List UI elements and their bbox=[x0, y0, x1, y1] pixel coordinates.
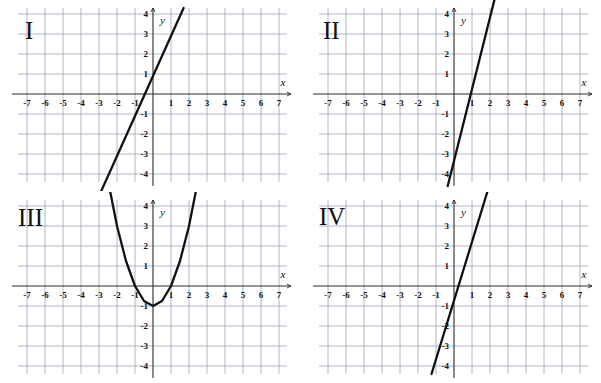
coordinate-plane-II: -7-6-5-4-3-2-112345674321-1-2-3-4 x y bbox=[301, 0, 601, 191]
y-tick-label: 4 bbox=[144, 9, 149, 19]
y-tick-label: -3 bbox=[442, 341, 450, 351]
x-tick-label: 1 bbox=[470, 290, 475, 300]
x-tick-label: -5 bbox=[360, 98, 368, 108]
x-tick-label: 7 bbox=[277, 290, 282, 300]
x-tick-label: -2 bbox=[113, 290, 121, 300]
y-tick-label: 4 bbox=[445, 9, 450, 19]
x-tick-label: 3 bbox=[205, 98, 210, 108]
y-tick-label: -2 bbox=[442, 129, 450, 139]
x-tick-label: -4 bbox=[378, 98, 386, 108]
panel-II: II bbox=[301, 0, 601, 191]
x-tick-label: 3 bbox=[506, 98, 511, 108]
x-tick-label: -4 bbox=[378, 290, 386, 300]
y-tick-label: 3 bbox=[445, 221, 450, 231]
x-tick-label: 6 bbox=[259, 98, 264, 108]
x-tick-label: 3 bbox=[506, 290, 511, 300]
y-tick-label: -2 bbox=[141, 321, 149, 331]
x-tick-label: 2 bbox=[488, 290, 493, 300]
panel-I: I bbox=[0, 0, 300, 191]
x-tick-label: 4 bbox=[524, 98, 529, 108]
x-tick-label: -3 bbox=[396, 98, 404, 108]
curve-IV bbox=[432, 192, 488, 374]
plot-area-IV: -7-6-5-4-3-2-112345674321-1-2-3-4 x y bbox=[301, 192, 601, 383]
x-tick-label: 5 bbox=[241, 98, 246, 108]
panel-label-III: III bbox=[18, 205, 43, 230]
x-tick-label: 4 bbox=[223, 290, 228, 300]
y-axis-label-III: y bbox=[159, 206, 165, 218]
y-tick-label: 3 bbox=[445, 29, 450, 39]
x-tick-label: -5 bbox=[59, 290, 67, 300]
x-tick-label: -7 bbox=[324, 290, 332, 300]
axes-I bbox=[12, 8, 291, 186]
x-tick-label: 7 bbox=[578, 98, 583, 108]
y-tick-label: 2 bbox=[144, 49, 149, 59]
axes-II bbox=[313, 8, 592, 186]
x-tick-label: -7 bbox=[23, 98, 31, 108]
panel-IV: IV bbox=[301, 192, 601, 383]
x-tick-label: 6 bbox=[259, 290, 264, 300]
y-tick-label: -4 bbox=[141, 169, 149, 179]
x-tick-label: -6 bbox=[342, 290, 350, 300]
x-tick-label: 4 bbox=[524, 290, 529, 300]
y-tick-label: 2 bbox=[144, 241, 149, 251]
y-tick-label: 1 bbox=[445, 69, 450, 79]
x-tick-label: 2 bbox=[187, 98, 192, 108]
panel-label-I: I bbox=[25, 18, 33, 43]
axes-IV bbox=[313, 200, 592, 378]
y-axis-label-II: y bbox=[460, 14, 466, 26]
x-tick-label: 7 bbox=[277, 98, 282, 108]
y-tick-label: -1 bbox=[442, 109, 450, 119]
x-tick-label: 5 bbox=[241, 290, 246, 300]
axes-III bbox=[12, 200, 291, 378]
y-tick-label: 3 bbox=[144, 221, 149, 231]
y-tick-label: 1 bbox=[445, 261, 450, 271]
x-axis-label-IV: x bbox=[581, 268, 587, 280]
plot-area-III: -7-6-5-4-3-2-112345674321-1-2-3-4 x y bbox=[0, 192, 300, 383]
coordinate-plane-I: -7-6-5-4-3-2-112345674321-1-2-3-4 x y bbox=[0, 0, 300, 191]
x-tick-label: 7 bbox=[578, 290, 583, 300]
y-tick-label: -1 bbox=[141, 109, 149, 119]
x-tick-label: 6 bbox=[560, 290, 565, 300]
x-tick-label: -6 bbox=[41, 290, 49, 300]
plot-area-I: -7-6-5-4-3-2-112345674321-1-2-3-4 x y bbox=[0, 0, 300, 191]
y-tick-label: 4 bbox=[144, 201, 149, 211]
coordinate-plane-III: -7-6-5-4-3-2-112345674321-1-2-3-4 x y bbox=[0, 192, 300, 383]
x-tick-label: -5 bbox=[360, 290, 368, 300]
x-tick-label: -6 bbox=[342, 98, 350, 108]
x-tick-label: -5 bbox=[59, 98, 67, 108]
y-tick-label: -4 bbox=[442, 169, 450, 179]
x-tick-label: -3 bbox=[95, 98, 103, 108]
x-tick-label: -6 bbox=[41, 98, 49, 108]
y-tick-label: 1 bbox=[144, 261, 149, 271]
x-tick-label: -4 bbox=[77, 290, 85, 300]
x-tick-label: -3 bbox=[95, 290, 103, 300]
y-tick-label: -3 bbox=[141, 341, 149, 351]
x-tick-label: -3 bbox=[396, 290, 404, 300]
y-tick-label: -3 bbox=[141, 149, 149, 159]
x-tick-label: 4 bbox=[223, 98, 228, 108]
panel-label-IV: IV bbox=[319, 204, 345, 229]
y-tick-label: 2 bbox=[445, 241, 450, 251]
x-axis-label-I: x bbox=[280, 76, 286, 88]
x-tick-label: -1 bbox=[432, 98, 440, 108]
y-tick-label: -2 bbox=[141, 129, 149, 139]
x-tick-label: 1 bbox=[169, 290, 174, 300]
x-tick-label: 2 bbox=[187, 290, 192, 300]
x-tick-label: -2 bbox=[414, 290, 422, 300]
y-tick-label: -1 bbox=[442, 301, 450, 311]
x-tick-label: 5 bbox=[542, 98, 547, 108]
x-tick-label: -7 bbox=[23, 290, 31, 300]
y-tick-label: -4 bbox=[141, 361, 149, 371]
x-tick-label: 6 bbox=[560, 98, 565, 108]
y-tick-label: 1 bbox=[144, 69, 149, 79]
panel-label-II: II bbox=[323, 18, 340, 43]
y-tick-label: 2 bbox=[445, 49, 450, 59]
plot-area-II: -7-6-5-4-3-2-112345674321-1-2-3-4 x y bbox=[301, 0, 601, 191]
x-tick-label: -2 bbox=[414, 98, 422, 108]
x-axis-label-II: x bbox=[581, 76, 587, 88]
y-axis-label-I: y bbox=[159, 14, 165, 26]
coordinate-plane-IV: -7-6-5-4-3-2-112345674321-1-2-3-4 x y bbox=[301, 192, 601, 383]
x-tick-label: 2 bbox=[488, 98, 493, 108]
x-tick-label: -7 bbox=[324, 98, 332, 108]
y-axis-label-IV: y bbox=[460, 206, 466, 218]
